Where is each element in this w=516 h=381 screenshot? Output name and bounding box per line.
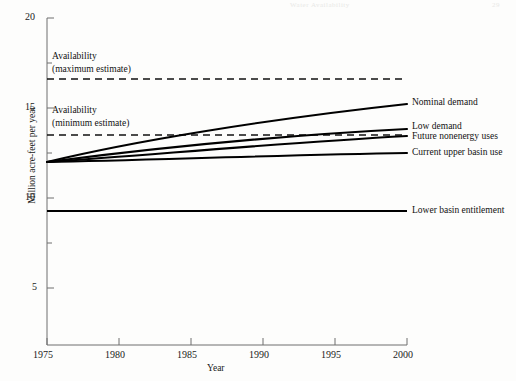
series-label-future-nonenergy-uses: Future nonenergy uses	[412, 131, 498, 141]
y-tick-label-5: 5	[32, 281, 37, 292]
annotation-availability-minimum: Availability (minimum estimate)	[52, 104, 129, 129]
x-tick-label-1980: 1980	[105, 349, 125, 360]
series-label-current-upper-basin-use: Current upper basin use	[412, 147, 503, 157]
x-tick-label-1990: 1990	[249, 349, 269, 360]
annotation-availability-maximum-line1: Availability	[52, 50, 131, 63]
figure-canvas: Water Availability 29	[0, 0, 516, 381]
annotation-availability-minimum-line2: (minimum estimate)	[52, 117, 129, 130]
series-label-nominal-demand: Nominal demand	[412, 97, 478, 107]
x-tick-label-1985: 1985	[177, 349, 197, 360]
x-tick-label-1995: 1995	[321, 349, 341, 360]
annotation-availability-maximum-line2: (maximum estimate)	[52, 63, 131, 76]
annotation-availability-minimum-line1: Availability	[52, 104, 129, 117]
series-label-lower-basin-entitlement: Lower basin entitlement	[412, 205, 504, 215]
x-tick-label-2000: 2000	[393, 349, 413, 360]
x-axis-title: Year	[207, 363, 225, 373]
annotation-availability-maximum: Availability (maximum estimate)	[52, 50, 131, 75]
y-tick-label-20: 20	[25, 11, 35, 22]
series-label-low-demand: Low demand	[412, 121, 462, 131]
y-axis-title: Million acre-feet per year	[27, 75, 37, 235]
x-tick-label-1975: 1975	[33, 349, 53, 360]
